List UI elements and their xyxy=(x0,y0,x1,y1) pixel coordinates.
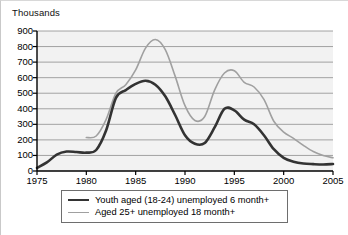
legend: Youth aged (18-24) unemployed 6 month+ A… xyxy=(61,190,288,223)
legend-swatch-youth-icon xyxy=(68,199,89,201)
x-tick-label: 1975 xyxy=(26,175,47,186)
y-tick-label: 500 xyxy=(17,88,33,98)
x-tick-label: 1980 xyxy=(76,175,97,186)
x-tick-label: 2000 xyxy=(273,175,294,186)
chart-figure: Thousands 0100200300400500600700800900 1… xyxy=(0,0,348,235)
legend-label-aged25: Aged 25+ unemployed 18 month+ xyxy=(95,207,235,217)
legend-swatch-aged25-icon xyxy=(68,212,89,213)
y-tick-label: 100 xyxy=(17,150,33,160)
y-tick-label: 700 xyxy=(17,57,33,67)
x-tick-label: 1995 xyxy=(224,175,245,186)
y-tick-label: 800 xyxy=(17,42,33,52)
y-tick-label: 200 xyxy=(17,135,33,145)
y-tick-label: 300 xyxy=(17,119,33,129)
legend-label-youth: Youth aged (18-24) unemployed 6 month+ xyxy=(95,195,269,205)
plot-svg xyxy=(37,31,333,171)
x-tick-label: 1990 xyxy=(174,175,195,186)
series-lines xyxy=(37,40,333,168)
y-tick-label: 600 xyxy=(17,73,33,83)
y-tick-label: 400 xyxy=(17,104,33,114)
y-tick-label: 900 xyxy=(17,26,33,36)
x-tick-label: 2005 xyxy=(322,175,343,186)
y-axis-tick-labels: 0100200300400500600700800900 xyxy=(0,0,33,235)
legend-item-aged25: Aged 25+ unemployed 18 month+ xyxy=(68,205,235,219)
plot-area xyxy=(37,31,333,171)
x-tick-label: 1985 xyxy=(125,175,146,186)
